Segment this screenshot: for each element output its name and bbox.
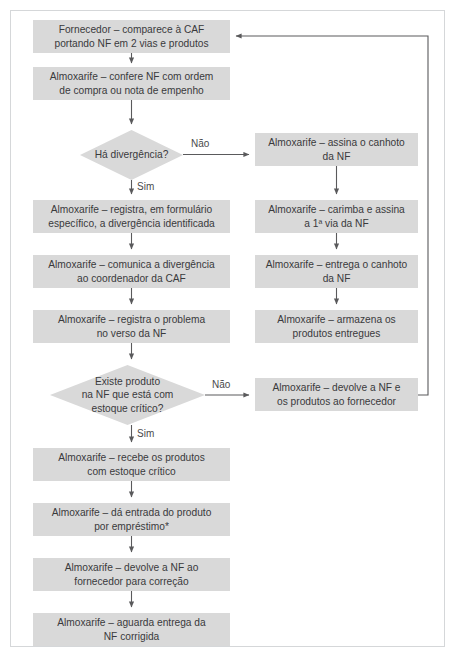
decision-label: Existe produto na NF que está com estoqu… (50, 365, 205, 425)
edge-label-sim-2: Sim (137, 428, 154, 440)
node-devolve-nf-correcao: Almoxarife – devolve a NF ao fornecedor … (33, 558, 230, 591)
edge-label-sim-1: Sim (137, 181, 154, 193)
decision-estoque-critico: Existe produto na NF que está com estoqu… (50, 365, 205, 425)
node-armazena-produtos: Almoxarife – armazena os produtos entreg… (255, 310, 418, 343)
edge-label-nao-2: Não (212, 379, 230, 391)
node-entrega-canhoto: Almoxarife – entrega o canhoto da NF (255, 255, 418, 288)
edge-label-nao-1: Não (191, 138, 209, 150)
decision-label: Há divergência? (80, 130, 183, 180)
decision-ha-divergencia: Há divergência? (80, 130, 183, 180)
node-fornecedor-comparece: Fornecedor – comparece à CAF portando NF… (33, 20, 230, 53)
node-carimba-assina-via: Almoxarife – carimba e assina a 1ª via d… (255, 200, 418, 233)
node-registra-problema-verso: Almoxarife – registra o problema no vers… (33, 310, 230, 343)
node-aguarda-entrega: Almoxarife – aguarda entrega da NF corri… (33, 613, 230, 646)
node-da-entrada-emprestimo: Almoxarife – dá entrada do produto por e… (33, 503, 230, 536)
node-assina-canhoto: Almoxarife – assina o canhoto da NF (255, 133, 418, 166)
node-devolve-nf-produtos: Almoxarife – devolve a NF e os produtos … (255, 378, 418, 411)
node-comunica-divergencia: Almoxarife – comunica a divergência ao c… (33, 255, 230, 288)
node-recebe-produtos: Almoxarife – recebe os produtos com esto… (33, 448, 230, 481)
node-confere-nf: Almoxarife – confere NF com ordem de com… (33, 67, 230, 100)
flowchart-figure: Fornecedor – comparece à CAF portando NF… (0, 0, 457, 659)
node-registra-formulario: Almoxarife – registra, em formulário esp… (33, 200, 230, 233)
